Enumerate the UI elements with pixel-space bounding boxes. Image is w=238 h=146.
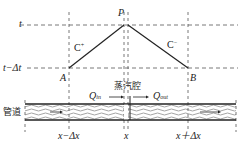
- characteristic-diagram: [0, 0, 238, 146]
- time-label-t-minus-dt: t−Δt: [3, 63, 21, 73]
- c-minus-line: [128, 25, 188, 68]
- c-minus-label: C−: [167, 37, 177, 50]
- x-label: x: [124, 131, 128, 141]
- x-plus-dx-label: x＋Δx: [176, 131, 201, 141]
- point-a-label: A: [60, 73, 66, 83]
- steam-chamber: [124, 105, 128, 120]
- c-plus-label: C+: [74, 40, 84, 53]
- point-p-label: P: [118, 8, 124, 18]
- x-minus-dx-label: x−Δx: [58, 131, 80, 141]
- q-out-arrowhead-icon: [146, 96, 149, 99]
- q-out-label: Qout: [153, 91, 168, 102]
- time-label-t: t: [19, 19, 22, 29]
- q-in-arrowhead-icon: [121, 96, 124, 99]
- pipe-label: 管道: [3, 107, 21, 117]
- steam-chamber-label: 蒸汽腔: [114, 81, 141, 91]
- point-b-label: B: [190, 73, 196, 83]
- q-in-label: Qin: [89, 91, 101, 102]
